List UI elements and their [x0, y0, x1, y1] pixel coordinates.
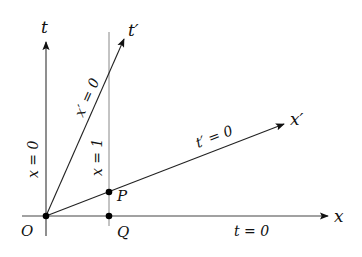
- x-prime-axis: [46, 124, 284, 216]
- point-Q: [106, 213, 113, 220]
- x-axis-label: x: [334, 206, 344, 226]
- point-P-label: P: [116, 187, 128, 205]
- t-prime-axis: [46, 39, 124, 216]
- point-O-label: O: [21, 222, 33, 240]
- spacetime-diagram: t t′ x′ x x = 0 x = 1 x′ = 0 t′ = 0 t = …: [0, 0, 362, 257]
- x-prime-eq-0-label: x′ = 0: [71, 76, 102, 120]
- point-Q-label: Q: [117, 223, 129, 241]
- t-eq-0-label: t = 0: [234, 223, 269, 239]
- t-axis-label: t: [41, 17, 48, 37]
- t-prime-axis-label: t′: [128, 20, 139, 40]
- point-O: [43, 213, 50, 220]
- x-prime-axis-label: x′: [290, 109, 304, 129]
- x-eq-1-label: x = 1: [89, 139, 105, 176]
- x-eq-0-label: x = 0: [25, 140, 41, 178]
- point-P: [106, 189, 113, 196]
- t-prime-eq-0-label: t′ = 0: [193, 122, 235, 151]
